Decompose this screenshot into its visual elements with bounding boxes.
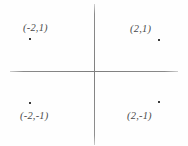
point-marker-2-1 bbox=[158, 39, 160, 41]
point-label-2-negative1: (2,-1) bbox=[127, 110, 152, 121]
coordinate-plane-figure: (-2,1) (2,1) (-2,-1) (2,-1) bbox=[0, 0, 188, 146]
point-label-negative2-negative1: (-2,-1) bbox=[20, 110, 49, 121]
point-label-negative2-1: (-2,1) bbox=[23, 22, 48, 33]
point-label-2-1: (2,1) bbox=[130, 23, 151, 34]
point-marker-negative2-1 bbox=[29, 38, 31, 40]
point-marker-negative2-negative1 bbox=[29, 102, 31, 104]
point-marker-2-negative1 bbox=[158, 101, 160, 103]
y-axis-line bbox=[94, 4, 95, 145]
